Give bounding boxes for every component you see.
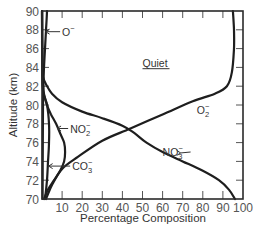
annotations: QuietO−NO2−CO3−NO3−O2− (46, 24, 210, 175)
y-axis-label: Altitude (km) (7, 73, 19, 138)
y-tick-label: 82 (26, 80, 40, 94)
axis-ticks-y: 7072747678808284868890 (26, 5, 243, 207)
label-o2: O2− (197, 102, 210, 119)
y-tick-label: 84 (26, 61, 40, 75)
y-tick-label: 76 (26, 136, 40, 150)
label-no3: NO3− (163, 144, 184, 161)
x-axis-label: Percentage Composition (80, 212, 206, 224)
altitude-composition-chart: 7072747678808284868890 10203040506070809… (0, 0, 259, 236)
label-o: O− (62, 24, 75, 38)
quiet-label: Quiet (143, 57, 168, 69)
x-tick-label: 100 (233, 201, 253, 215)
y-tick-label: 88 (26, 23, 40, 37)
y-tick-label: 86 (26, 42, 40, 56)
x-tick-label: 10 (55, 201, 69, 215)
label-co3: CO3− (72, 158, 93, 175)
y-tick-label: 70 (26, 193, 40, 207)
y-tick-label: 80 (26, 99, 40, 113)
x-tick-label: 90 (216, 201, 230, 215)
y-tick-label: 74 (26, 155, 40, 169)
label-no2: NO2− (70, 121, 91, 138)
y-tick-label: 72 (26, 174, 40, 188)
y-tick-label: 90 (26, 5, 40, 19)
y-tick-label: 78 (26, 117, 40, 131)
